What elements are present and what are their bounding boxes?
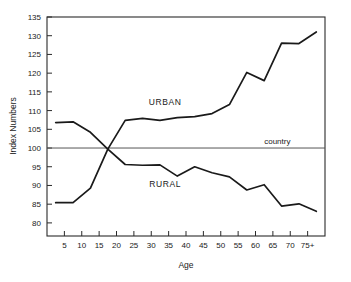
y-tick-label: 85	[32, 200, 41, 209]
y-tick-label: 80	[32, 219, 41, 228]
x-axis-ticks: 51015202530354045505560657075+	[62, 231, 315, 250]
chart-figure: 80859095100105110115120125130135 5101520…	[0, 0, 351, 282]
country-reference-label: country	[264, 137, 290, 146]
x-tick-label: 45	[199, 241, 208, 250]
plot-frame	[47, 17, 325, 236]
x-tick-label: 15	[95, 241, 104, 250]
x-tick-label: 75+	[301, 241, 315, 250]
x-tick-label: 25	[129, 241, 138, 250]
line-chart: 80859095100105110115120125130135 5101520…	[0, 0, 351, 282]
series-lines	[56, 32, 317, 211]
y-axis-ticks: 80859095100105110115120125130135	[28, 13, 52, 228]
y-tick-label: 120	[28, 69, 42, 78]
y-tick-label: 105	[28, 125, 42, 134]
y-tick-label: 100	[28, 144, 42, 153]
urban-series-label: URBAN	[149, 97, 182, 107]
x-tick-label: 40	[182, 241, 191, 250]
rural-line	[56, 122, 317, 211]
y-tick-label: 90	[32, 181, 41, 190]
x-tick-label: 10	[77, 241, 86, 250]
y-tick-label: 130	[28, 32, 42, 41]
x-tick-label: 50	[216, 241, 225, 250]
x-tick-label: 35	[164, 241, 173, 250]
x-tick-label: 5	[62, 241, 67, 250]
rural-series-label: RURAL	[149, 179, 181, 189]
x-tick-label: 20	[112, 241, 121, 250]
x-tick-label: 30	[147, 241, 156, 250]
y-tick-label: 115	[28, 88, 41, 97]
y-tick-label: 125	[28, 50, 42, 59]
urban-line	[56, 32, 317, 203]
y-axis-title: Index Numbers	[8, 97, 18, 155]
x-tick-label: 65	[268, 241, 277, 250]
x-tick-label: 70	[286, 241, 295, 250]
y-tick-label: 95	[32, 163, 41, 172]
x-tick-label: 55	[234, 241, 243, 250]
x-tick-label: 60	[251, 241, 260, 250]
y-tick-label: 135	[28, 13, 42, 22]
x-axis-title: Age	[178, 260, 193, 270]
y-tick-label: 110	[28, 107, 41, 116]
